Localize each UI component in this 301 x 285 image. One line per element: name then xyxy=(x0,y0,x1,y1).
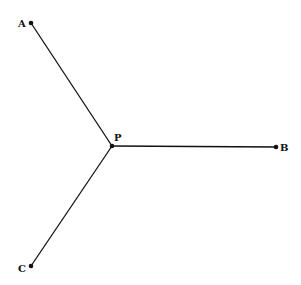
label-a: A xyxy=(17,18,26,29)
point-p xyxy=(110,144,115,149)
point-a xyxy=(29,21,34,26)
diagram-canvas: A B C P xyxy=(0,0,301,285)
segment-pc xyxy=(31,146,112,266)
label-c: C xyxy=(18,263,26,274)
label-p: P xyxy=(114,132,122,143)
point-c xyxy=(29,264,34,269)
segment-pb xyxy=(112,146,276,147)
label-b: B xyxy=(280,142,288,153)
point-b xyxy=(274,145,279,150)
segment-pa xyxy=(31,23,112,146)
